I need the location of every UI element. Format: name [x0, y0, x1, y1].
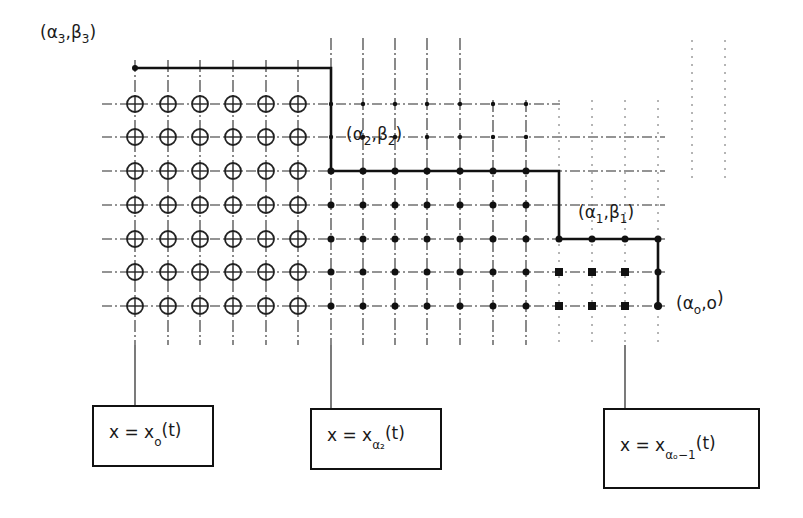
grid-intersection	[491, 102, 495, 106]
corner-label-a1b1: (α1,β1)	[578, 202, 634, 226]
dot-point	[523, 303, 530, 310]
dot-point	[392, 269, 399, 276]
dot-point	[328, 269, 335, 276]
dot-point	[392, 236, 399, 243]
grid-intersection	[524, 135, 528, 139]
dot-point	[424, 202, 431, 209]
grid-intersection	[524, 102, 528, 106]
dot-point	[457, 303, 464, 310]
dot-point	[424, 303, 431, 310]
grid-intersection	[425, 102, 429, 106]
box-xa0-1: x = xαₒ−1(t)	[604, 345, 759, 488]
dot-point	[424, 236, 431, 243]
square-point	[555, 302, 563, 310]
dot-point	[523, 269, 530, 276]
grid-intersection	[491, 135, 495, 139]
dot-point	[360, 303, 367, 310]
square-point	[588, 268, 596, 276]
square-point	[555, 268, 563, 276]
dot-point	[392, 303, 399, 310]
square-point	[621, 268, 629, 276]
corner-label-a3b3: (α3,β3)	[40, 22, 96, 46]
dot-point	[490, 236, 497, 243]
dot-point	[457, 202, 464, 209]
dot-point	[328, 303, 335, 310]
box-x0: x = xo(t)	[93, 345, 213, 466]
grid-intersection	[458, 135, 462, 139]
grid-intersection	[425, 135, 429, 139]
dot-point	[457, 236, 464, 243]
dot-point	[457, 269, 464, 276]
square-point	[588, 302, 596, 310]
dot-point	[523, 202, 530, 209]
dot-point	[490, 269, 497, 276]
dot-point	[424, 269, 431, 276]
box-xa2: x = xα₂(t)	[311, 345, 441, 469]
grid-intersection	[361, 102, 365, 106]
dot-point	[360, 202, 367, 209]
dot-point	[360, 236, 367, 243]
lattice-diagram: (α3,β3)(α2,β2)(α1,β1)(αo,o) x = xo(t)x =…	[0, 0, 803, 518]
grid-intersection	[393, 102, 397, 106]
corner-label-a0b0: (αo,o)	[676, 288, 724, 317]
square-point	[621, 302, 629, 310]
dot-point	[392, 202, 399, 209]
dot-point	[328, 202, 335, 209]
dot-point	[328, 236, 335, 243]
dot-point	[490, 202, 497, 209]
dot-point	[360, 269, 367, 276]
dot-point	[490, 303, 497, 310]
equation-boxes: x = xo(t)x = xα₂(t)x = xαₒ−1(t)	[93, 345, 759, 488]
grid-intersection	[458, 102, 462, 106]
corner-label-a2b2: (α2,β2)	[346, 124, 402, 148]
dot-point	[523, 236, 530, 243]
